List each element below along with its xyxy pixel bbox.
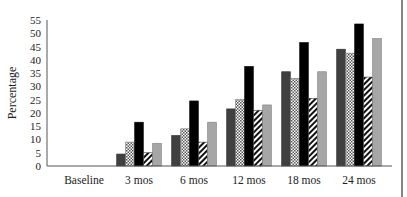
y-tick-label: 45 [30,41,42,53]
bar [355,24,364,166]
y-axis-label: Percentage [5,67,19,120]
x-tick-label: 3 mos [125,174,153,186]
bar [181,129,190,166]
bar [373,39,382,166]
bar [199,142,208,166]
bar [254,110,263,166]
x-tick-label: 6 mos [180,174,208,186]
y-tick-label: 35 [30,67,42,79]
bar [153,143,162,166]
bar [263,105,272,166]
bar [135,122,144,166]
bar [300,43,309,166]
bar [236,100,245,166]
y-tick-label: 40 [30,54,42,66]
bar-chart: 0510152025303540455055 Percentage Baseli… [0,0,407,197]
y-tick-label: 20 [30,107,42,119]
y-tick-label: 50 [30,27,42,39]
y-axis-ticks: 0510152025303540455055 [30,14,42,172]
y-tick-label: 10 [30,133,42,145]
x-tick-label: 18 mos [287,174,321,186]
x-tick-label: Baseline [64,174,104,186]
bar [117,154,126,166]
bar [282,72,291,166]
bar [309,98,318,166]
x-tick-label: 24 mos [342,174,376,186]
x-axis-labels: Baseline3 mos6 mos12 mos18 mos24 mos [64,174,376,186]
bar [364,77,373,166]
bar [291,78,300,166]
y-tick-label: 30 [30,80,42,92]
bar [190,101,199,166]
bar [172,135,181,166]
y-tick-label: 0 [36,160,42,172]
y-tick-label: 55 [30,14,42,26]
bar [245,66,254,166]
bar-series [117,24,382,166]
bar [208,122,217,166]
bar [227,109,236,166]
bar [126,142,135,166]
bar [346,53,355,166]
bar [144,153,153,166]
bar [318,72,327,166]
y-tick-label: 25 [30,94,42,106]
x-tick-label: 12 mos [232,174,266,186]
y-tick-label: 5 [36,147,42,159]
y-tick-label: 15 [30,120,42,132]
bar [337,49,346,166]
